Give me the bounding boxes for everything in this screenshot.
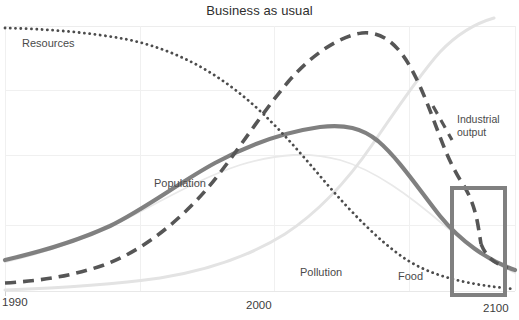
highlight-box — [452, 188, 505, 295]
x-axis-tick-2100: 2100 — [483, 302, 509, 315]
x-axis-tick-2000: 2000 — [246, 299, 272, 312]
series-line-pollution — [5, 18, 494, 290]
x-axis-tick-1990: 1990 — [2, 296, 28, 309]
chart-plot-area — [0, 0, 519, 320]
series-label-industrial-output-line1: Industrial — [457, 113, 517, 126]
series-label-pollution: Pollution — [300, 266, 342, 279]
series-label-resources: Resources — [22, 37, 75, 50]
series-label-industrial-output: Industrial output — [457, 113, 517, 138]
series-label-food: Food — [398, 270, 423, 283]
series-line-industrial-output — [5, 33, 481, 283]
series-label-industrial-output-line2: output — [457, 126, 517, 139]
series-label-population: Population — [154, 177, 206, 190]
chart-container: Business as usual — [0, 0, 519, 320]
series-line-resources — [5, 28, 515, 289]
